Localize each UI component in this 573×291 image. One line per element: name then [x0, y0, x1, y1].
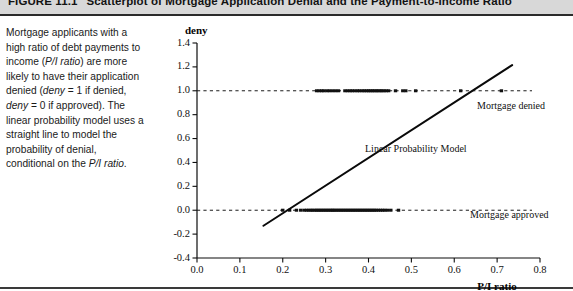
x-tick-label-6: 0.6 — [438, 264, 470, 275]
data-point — [311, 209, 314, 212]
data-point — [363, 89, 366, 92]
data-point — [318, 209, 321, 212]
y-tick-label-1: 1.2 — [149, 60, 190, 71]
data-point — [307, 209, 310, 212]
data-point — [384, 89, 387, 92]
data-point — [340, 209, 343, 212]
caption-deny-emphasis-1: deny — [43, 85, 65, 96]
data-point — [365, 89, 368, 92]
x-tick-label-5: 0.5 — [395, 264, 427, 275]
data-point — [317, 209, 320, 212]
figure-header-bar: FIGURE 11.1Scatterplot of Mortgage Appli… — [0, 0, 573, 14]
data-point — [351, 89, 354, 92]
data-point — [389, 209, 392, 212]
data-point — [339, 209, 342, 212]
data-point — [373, 209, 376, 212]
data-point — [329, 209, 332, 212]
data-point — [302, 209, 305, 212]
y-tick-label-9: -0.4 — [149, 252, 190, 263]
data-point — [346, 89, 349, 92]
data-point — [281, 209, 284, 212]
data-point — [401, 89, 404, 92]
data-point — [328, 89, 331, 92]
data-point — [325, 209, 328, 212]
data-point — [315, 209, 318, 212]
data-point — [361, 209, 364, 212]
x-tick-label-7: 0.7 — [481, 264, 513, 275]
caption-pi-ratio-emphasis: P/I ratio — [45, 56, 80, 67]
data-point — [330, 209, 333, 212]
x-tick-label-8: 0.8 — [524, 264, 556, 275]
data-point — [337, 89, 340, 92]
data-point — [397, 209, 400, 212]
data-point — [352, 209, 355, 212]
data-point — [369, 89, 372, 92]
y-tick-label-3: 0.8 — [149, 108, 190, 119]
data-point — [334, 89, 337, 92]
data-point — [356, 89, 359, 92]
data-point — [383, 209, 386, 212]
data-point — [345, 209, 348, 212]
data-point — [349, 209, 352, 212]
y-tick-label-8: -0.2 — [149, 228, 190, 239]
data-point — [344, 209, 347, 212]
y-tick-label-4: 0.6 — [149, 132, 190, 143]
y-tick-label-5: 0.4 — [149, 156, 190, 167]
mortgage-approved-label: Mortgage approved — [470, 209, 549, 220]
data-point — [378, 89, 381, 92]
y-tick-label-7: 0.0 — [149, 204, 190, 215]
data-point — [354, 209, 357, 212]
y-tick-label-6: 0.2 — [149, 180, 190, 191]
x-tick-label-1: 0.1 — [224, 264, 256, 275]
data-point — [459, 89, 462, 92]
x-tick-label-3: 0.3 — [310, 264, 342, 275]
data-point — [353, 89, 356, 92]
data-point — [359, 209, 362, 212]
data-point — [288, 209, 291, 212]
data-point — [380, 89, 383, 92]
data-point — [295, 209, 298, 212]
data-point — [369, 209, 372, 212]
data-point — [309, 209, 312, 212]
data-point — [386, 209, 389, 212]
caption-deny-emphasis-2: deny — [6, 100, 28, 111]
data-point — [414, 89, 417, 92]
data-point — [360, 89, 363, 92]
data-point — [379, 209, 382, 212]
data-point — [356, 209, 359, 212]
data-point — [363, 209, 366, 212]
data-point — [366, 209, 369, 212]
y-tick-label-0: 1.4 — [149, 37, 190, 48]
linear-probability-model-label: Linear Probability Model — [365, 143, 467, 154]
data-point — [343, 89, 346, 92]
y-axis-title: deny — [185, 24, 208, 36]
data-point — [351, 209, 354, 212]
data-point — [375, 209, 378, 212]
data-point — [358, 89, 361, 92]
x-tick-label-0: 0.0 — [181, 264, 213, 275]
data-point — [500, 89, 503, 92]
data-point — [375, 89, 378, 92]
data-point — [368, 209, 371, 212]
data-point — [342, 209, 345, 212]
data-point — [320, 209, 323, 212]
data-point — [322, 89, 325, 92]
figure-header-text: FIGURE 11.1Scatterplot of Mortgage Appli… — [8, 0, 512, 7]
data-point — [320, 89, 323, 92]
mortgage-denied-label: Mortgage denied — [477, 100, 545, 111]
data-point — [299, 209, 302, 212]
figure-panel: FIGURE 11.1Scatterplot of Mortgage Appli… — [0, 0, 573, 291]
caption-pi-ratio-emphasis-2: P/I ratio — [89, 158, 124, 169]
data-point — [372, 89, 375, 92]
data-point — [367, 89, 370, 92]
data-point — [324, 209, 327, 212]
data-point — [347, 209, 350, 212]
data-point — [315, 89, 318, 92]
data-point — [394, 89, 397, 92]
data-point — [333, 209, 336, 212]
figure-caption: Mortgage applicants with a high ratio of… — [6, 26, 146, 172]
data-point — [335, 209, 338, 212]
y-tick-label-2: 1.0 — [149, 84, 190, 95]
data-point — [305, 209, 308, 212]
data-point — [382, 89, 385, 92]
